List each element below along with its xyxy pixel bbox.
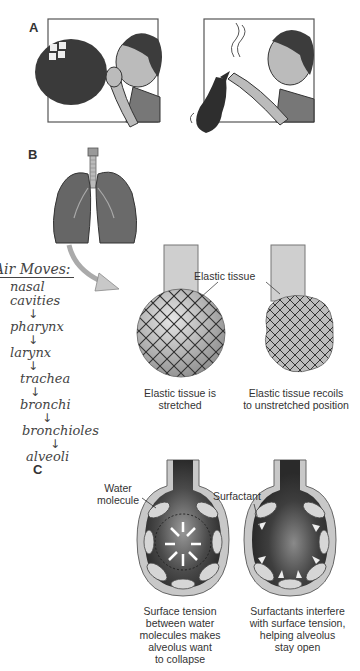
balloon-inflating-illustration xyxy=(38,17,168,135)
caption-stretched: Elastic tissue is stretched xyxy=(125,387,235,411)
surfactant-callout: Surfactant xyxy=(213,490,261,502)
deflated-balloon xyxy=(196,77,226,133)
stretched-alveolus xyxy=(125,245,235,380)
caption-recoils: Elastic tissue recoils to unstretched po… xyxy=(232,387,360,411)
notes-step: nasal xyxy=(0,280,74,294)
notes-step: larynx xyxy=(0,346,74,360)
alveolus-surface-tension xyxy=(133,460,233,600)
notes-step: trachea xyxy=(0,372,74,386)
larynx xyxy=(88,148,98,156)
water-molecule-callout: Water molecule xyxy=(97,482,139,506)
elastic-tissue-leader-lines xyxy=(180,280,290,300)
notes-step: cavities xyxy=(0,294,74,308)
lungs-illustration xyxy=(48,148,143,248)
panel-a-label: A xyxy=(29,20,38,35)
alveolus-sac xyxy=(137,289,225,377)
panel-c-label: C xyxy=(33,462,42,477)
caption-surface-tension: Surface tension between water molecules … xyxy=(120,605,240,665)
curved-arrow xyxy=(65,245,125,295)
notes-step: pharynx xyxy=(0,320,74,334)
notes-step: bronchioles xyxy=(0,424,74,438)
balloon xyxy=(35,39,107,105)
left-lung xyxy=(53,173,90,243)
notes-step: bronchi xyxy=(0,398,74,412)
handwritten-notes: Air Moves: nasal cavities ↓ pharynx ↓ la… xyxy=(0,262,74,464)
right-lung xyxy=(96,172,137,243)
panel-b-label: B xyxy=(28,147,37,162)
water-molecule-leader-line xyxy=(140,496,160,511)
notes-title: Air Moves: xyxy=(0,262,74,278)
recoiled-alveolus xyxy=(255,245,345,380)
surfactant-leader-line xyxy=(250,502,270,532)
balloon-deflating-illustration xyxy=(180,17,320,135)
caption-surfactants: Surfactants interfere with surface tensi… xyxy=(235,605,360,653)
